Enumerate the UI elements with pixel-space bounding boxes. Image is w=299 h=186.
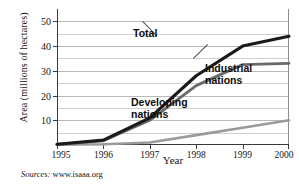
line-total: [57, 36, 289, 144]
series-label-total: Total: [133, 28, 157, 40]
x-tick-mark: [150, 145, 151, 149]
x-tick-mark: [196, 145, 197, 149]
y-tick-label: 50: [41, 16, 51, 27]
x-tick-mark: [103, 145, 104, 149]
series-label-industrial-line1: Industrial: [205, 62, 252, 74]
series-label-industrial-nations: Industrial nations: [205, 63, 252, 86]
x-axis-title: Year: [57, 154, 289, 166]
series-lines: [57, 9, 289, 145]
source-value: www.isaaa.org: [53, 169, 103, 179]
source-prefix: Sources:: [21, 169, 50, 179]
series-label-developing-line2: nations: [131, 108, 168, 120]
series-label-developing-line1: Developing: [131, 96, 188, 108]
series-label-developing-nations: Developing nations: [131, 97, 188, 120]
y-axis-title: Area (millions of hectares): [18, 0, 29, 138]
x-tick-mark: [243, 145, 244, 149]
chart-figure: Area (millions of hectares) 1020304050 1…: [0, 0, 299, 186]
y-tick-label: 30: [41, 66, 51, 77]
source-note: Sources: www.isaaa.org: [21, 169, 103, 179]
x-tick-mark: [288, 145, 289, 149]
plot-area: 1020304050 199519961997199819992000: [57, 9, 289, 145]
series-label-industrial-line2: nations: [205, 74, 242, 86]
y-tick-label: 10: [41, 115, 51, 126]
y-tick-label: 40: [41, 41, 51, 52]
y-tick-label: 20: [41, 91, 51, 102]
